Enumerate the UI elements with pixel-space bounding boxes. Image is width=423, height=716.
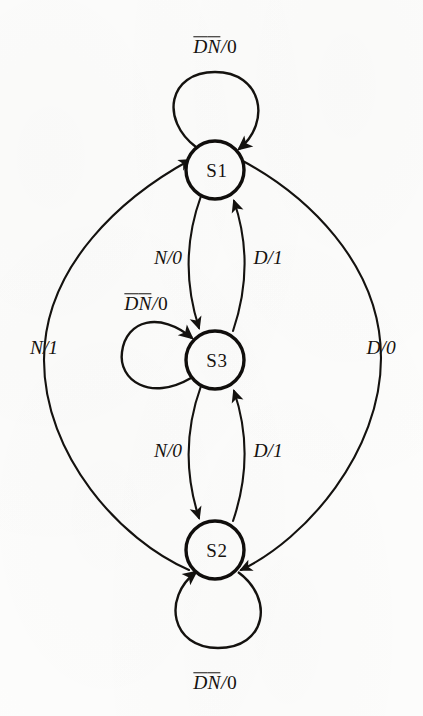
transition-label-s2-to-s1: N/1	[30, 338, 58, 358]
transition-label-s1-to-s2: D/0	[366, 338, 395, 358]
overline-d: D	[193, 672, 207, 693]
transition-path-s1-to-s3	[189, 196, 201, 328]
state-label-s1: S1	[206, 160, 228, 182]
figure-canvas: S1 S3 S2 DN/0 DN/0 DN/0 N/0 D/1 N/0 D/1 …	[0, 0, 423, 716]
output-digit: 0	[227, 672, 237, 693]
transition-path-s2-to-s1	[44, 160, 190, 570]
self-loop-path-s3	[122, 322, 192, 388]
transition-path-s2-to-s3	[233, 391, 244, 521]
transition-label-s2-to-s3: D/1	[253, 441, 282, 461]
self-loop-label-s1: DN/0	[193, 36, 236, 57]
state-label-s3: S3	[206, 350, 228, 372]
transition-path-s1-to-s2	[241, 160, 381, 570]
transition-label-s1-to-s3: N/0	[154, 248, 182, 268]
overline-n: N	[207, 672, 220, 693]
self-loop-label-s2: DN/0	[193, 672, 236, 693]
output-digit: 0	[227, 36, 237, 57]
transition-label-s3-to-s1: D/1	[253, 248, 282, 268]
transition-path-s3-to-s1	[233, 201, 244, 331]
self-loop-path-s2	[176, 572, 261, 648]
overline-d: D	[124, 293, 138, 314]
self-loop-label-s3: DN/0	[124, 293, 167, 314]
overline-d: D	[193, 36, 207, 57]
transition-label-s3-to-s2: N/0	[154, 441, 182, 461]
overline-n: N	[207, 36, 220, 57]
output-digit: 0	[158, 293, 168, 314]
overline-n: N	[138, 293, 151, 314]
transition-path-s3-to-s2	[189, 386, 201, 518]
state-label-s2: S2	[206, 540, 228, 562]
self-loop-path-s1	[174, 72, 259, 149]
